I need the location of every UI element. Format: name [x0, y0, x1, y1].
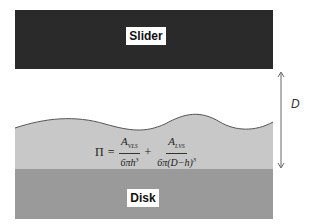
disk-block: Disk	[15, 169, 273, 219]
formula-term2: ALVS 6π(D−h)3	[155, 135, 198, 170]
formula-plus: +	[144, 145, 151, 160]
term2-denominator-sup: 3	[193, 157, 196, 163]
dimension-label: D	[291, 97, 300, 111]
term1-numerator-sub: VLS	[128, 143, 138, 149]
formula-lhs: Π	[95, 145, 104, 160]
disk-label: Disk	[127, 189, 159, 207]
term1-denominator-sup: 3	[135, 157, 138, 163]
term1-denominator: 6πh	[120, 157, 135, 168]
dimension-arrow	[278, 72, 284, 168]
formula-term1: AVLS 6πh3	[118, 135, 140, 170]
term1-numerator: A	[121, 135, 128, 147]
formula-equals: =	[108, 145, 115, 160]
term2-denominator: 6π(D−h)	[157, 157, 193, 168]
disjoining-pressure-formula: Π = AVLS 6πh3 + ALVS 6π(D−h)3	[93, 136, 200, 168]
term2-numerator-sub: LVS	[175, 143, 185, 149]
